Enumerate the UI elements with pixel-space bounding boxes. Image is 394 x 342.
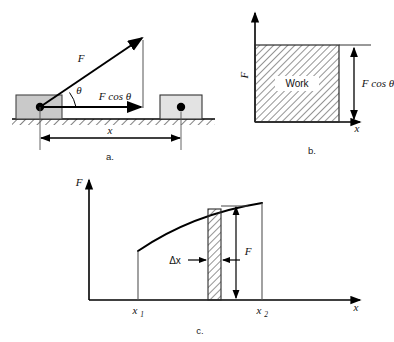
distance-label: x: [107, 124, 113, 136]
panel-b-y-axis-label: F: [238, 71, 250, 79]
panel-b-height-label: F cos θ: [361, 77, 394, 89]
delta-x-strip: [208, 209, 221, 300]
strip-height-label: F: [244, 245, 252, 257]
force-component-label: F cos θ: [98, 90, 132, 102]
x2-subscript: 2: [264, 310, 268, 319]
ground-surface: [12, 119, 215, 125]
force-curve: [138, 203, 262, 251]
x1-subscript: 1: [140, 310, 144, 319]
panel-a: F F cos θ θ x a.: [12, 38, 215, 162]
figure-canvas: F F cos θ θ x a. F x: [0, 0, 394, 342]
force-label: F: [77, 52, 85, 64]
angle-arc: [70, 93, 77, 108]
panel-b: F x Work F cos θ b.: [238, 13, 394, 156]
x2-tick-label: x 2: [256, 304, 269, 319]
block-end-dot: [177, 103, 185, 111]
panel-a-caption: a.: [106, 151, 114, 162]
panel-c: F x Δx F x 1: [75, 176, 360, 336]
x1-tick-label: x 1: [132, 304, 144, 319]
work-area-label: Work: [285, 78, 309, 89]
x2-label: x: [256, 304, 262, 316]
delta-x-label: Δx: [169, 255, 181, 266]
panel-c-caption: c.: [196, 325, 203, 336]
panel-c-x-axis-label: x: [353, 301, 359, 313]
physics-figure: F F cos θ θ x a. F x: [0, 0, 394, 342]
x1-label: x: [132, 304, 138, 316]
angle-label: θ: [76, 84, 82, 96]
panel-c-y-axis-label: F: [75, 176, 83, 188]
panel-b-x-axis-label: x: [354, 122, 360, 134]
panel-b-caption: b.: [308, 145, 316, 156]
